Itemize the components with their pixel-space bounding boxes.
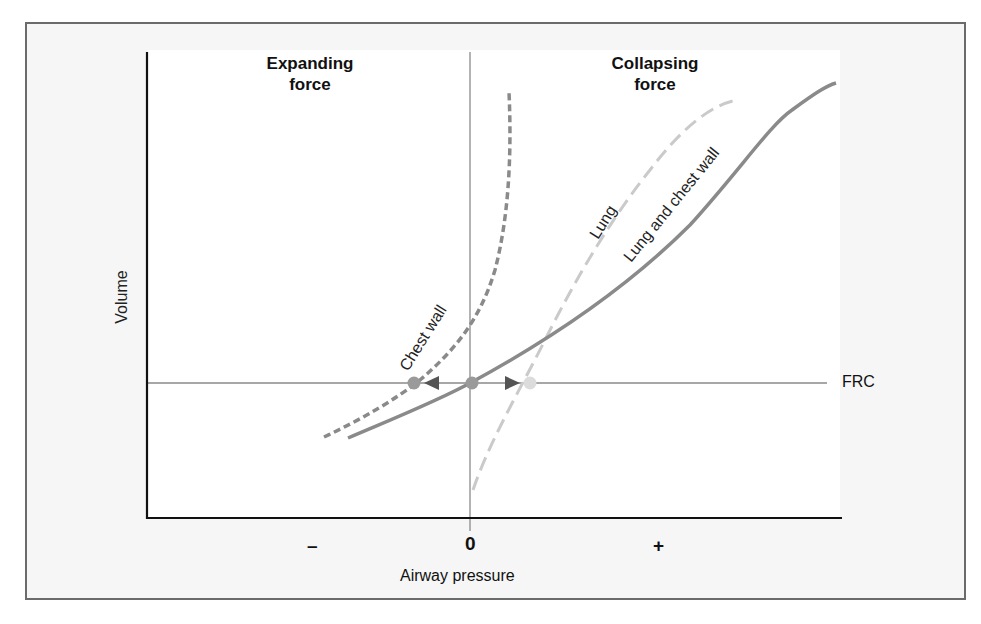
collapsing-force-label: Collapsing force: [590, 53, 720, 95]
x-tick-minus: –: [307, 535, 318, 557]
collapsing-line-1: Collapsing: [590, 53, 720, 74]
frc-label: FRC: [842, 373, 875, 391]
x-tick-zero: 0: [465, 533, 476, 555]
x-axis-title: Airway pressure: [400, 567, 515, 585]
expanding-line-2: force: [245, 74, 375, 95]
expanding-force-label: Expanding force: [245, 53, 375, 95]
lung-frc-point: [524, 377, 537, 390]
plot-area: [148, 50, 840, 518]
expanding-line-1: Expanding: [245, 53, 375, 74]
chart-svg: Chest wall Lung Lung and chest wall Volu…: [0, 0, 981, 624]
chest-wall-frc-point: [408, 377, 421, 390]
frc-equilibrium-point: [466, 377, 479, 390]
x-tick-plus: +: [653, 535, 664, 557]
collapsing-line-2: force: [590, 74, 720, 95]
y-axis-title: Volume: [113, 270, 130, 323]
